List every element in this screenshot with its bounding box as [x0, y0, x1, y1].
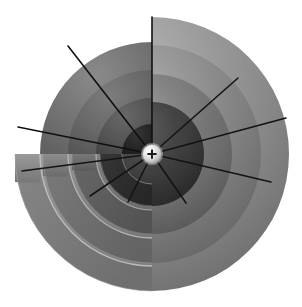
figure-root: Cutaway of nested concentric spherical s…	[0, 0, 302, 307]
shell-model-illustration: Cutaway of nested concentric spherical s…	[0, 0, 302, 307]
plus-icon-vertical-bar	[151, 150, 153, 159]
nucleus	[141, 143, 163, 165]
shell-4-cut-wall-vertical	[15, 154, 40, 183]
